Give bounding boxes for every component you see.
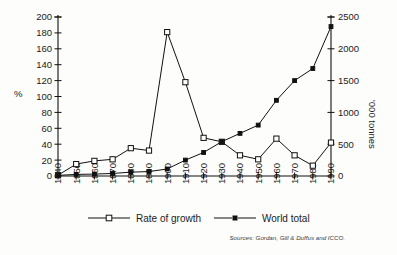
data-point-marker (74, 173, 78, 177)
data-point-marker (111, 172, 115, 176)
right-axis-tick-label: 0 (338, 170, 343, 181)
data-point-marker (275, 98, 279, 102)
left-axis-tick-label: 180 (36, 27, 52, 38)
left-axis-tick-label: 80 (41, 107, 52, 118)
legend-marker-world-total (233, 216, 237, 220)
source-note: Sources: Gordan, Gill & Duffus and ICCO. (229, 234, 345, 241)
data-point-marker (165, 30, 170, 35)
chart-container: 020406080100120140160180200 050010001500… (0, 0, 397, 255)
data-point-marker (129, 170, 133, 174)
y-axis-label-right: '000 tonnes (367, 100, 378, 149)
right-axis-tick-label: 500 (338, 139, 354, 150)
data-point-marker (184, 158, 188, 162)
right-axis-tick-label: 2000 (338, 43, 359, 54)
data-point-marker (201, 135, 206, 140)
left-axis-tick-label: 20 (41, 155, 52, 166)
legend-label-rate-of-growth: Rate of growth (136, 213, 201, 224)
data-point-marker (74, 161, 79, 166)
x-axis-tick-label: 1900 (162, 163, 173, 184)
data-point-marker (183, 80, 188, 85)
x-axis-tick-label: 1930 (216, 163, 227, 184)
left-axis-tick-label: 140 (36, 59, 52, 70)
data-point-marker (56, 173, 60, 177)
data-point-marker (292, 153, 297, 158)
right-axis-tick-label: 1500 (338, 75, 359, 86)
data-point-marker (293, 79, 297, 83)
left-axis-tick-label: 100 (36, 91, 52, 102)
x-axis-tick-label: 1960 (271, 163, 282, 184)
x-axis-tick-label: 1910 (180, 163, 191, 184)
x-axis-tick-label: 1920 (198, 163, 209, 184)
data-point-marker (146, 148, 151, 153)
data-point-marker (310, 163, 315, 168)
data-point-marker (165, 167, 169, 171)
data-point-marker (93, 172, 97, 176)
left-axis-tick-label: 120 (36, 75, 52, 86)
right-axis-tick-label: 2500 (338, 11, 359, 22)
data-point-marker (256, 157, 261, 162)
right-axis-tick-label: 1000 (338, 107, 359, 118)
data-point-marker (238, 131, 242, 135)
left-axis-tick-label: 60 (41, 123, 52, 134)
left-axis-tick-label: 40 (41, 139, 52, 150)
x-axis-tick-label: 1950 (253, 163, 264, 184)
cocoa-growth-line-chart: 020406080100120140160180200 050010001500… (0, 0, 397, 255)
data-point-marker (92, 158, 97, 163)
x-axis-tick-label: 1940 (234, 163, 245, 184)
legend-label-world-total: World total (262, 213, 310, 224)
data-point-marker (128, 146, 133, 151)
x-axis-tick-label: 1970 (289, 163, 300, 184)
left-axis-tick-label: 160 (36, 43, 52, 54)
left-axis-tick-label: 0 (47, 170, 52, 181)
y-axis-label-left: % (14, 88, 23, 99)
legend-marker-rate-of-growth (106, 215, 112, 221)
data-point-marker (202, 151, 206, 155)
data-point-marker (220, 140, 224, 144)
data-point-marker (256, 123, 260, 127)
left-axis-tick-label: 200 (36, 11, 52, 22)
data-point-marker (110, 157, 115, 162)
data-point-marker (147, 170, 151, 174)
x-axis-tick-label: 1990 (325, 163, 336, 184)
data-point-marker (311, 67, 315, 71)
data-point-marker (274, 136, 279, 141)
data-point-marker (328, 140, 333, 145)
data-point-marker (237, 153, 242, 158)
data-point-marker (329, 25, 333, 29)
